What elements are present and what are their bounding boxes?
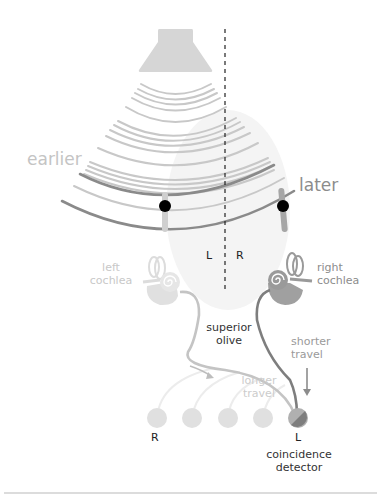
right-hemisphere-label: R (236, 250, 244, 263)
diagram-graphics (0, 0, 377, 503)
left-cochlea-label: left cochlea (88, 262, 134, 287)
detector-4 (253, 408, 273, 428)
speaker-icon (139, 29, 213, 72)
left-arrival-dot (159, 200, 171, 212)
right-cochlea-label: right cochlea (317, 262, 359, 287)
detector-l-label: L (295, 432, 301, 445)
left-cochlea-icon (143, 257, 180, 305)
coincidence-detector-caption: coincidence detector (264, 449, 334, 474)
detector-3 (218, 408, 238, 428)
longer-travel-label: longer travel (238, 375, 280, 400)
shorter-travel-label: shorter travel (291, 336, 331, 361)
superior-olive-label: superior olive (203, 322, 255, 347)
left-hemisphere-label: L (206, 250, 212, 263)
shorter-travel-arrow (303, 368, 311, 396)
detector-active (288, 408, 308, 428)
sound-localization-diagram: earlier later L R left cochlea right coc… (0, 0, 377, 503)
detector-2 (182, 408, 202, 428)
detector-r-label: R (151, 432, 159, 445)
detector-1 (147, 408, 167, 428)
right-arrival-dot (277, 200, 289, 212)
earlier-label: earlier (27, 150, 82, 170)
later-label: later (299, 176, 338, 196)
coincidence-detector-row (147, 408, 308, 428)
